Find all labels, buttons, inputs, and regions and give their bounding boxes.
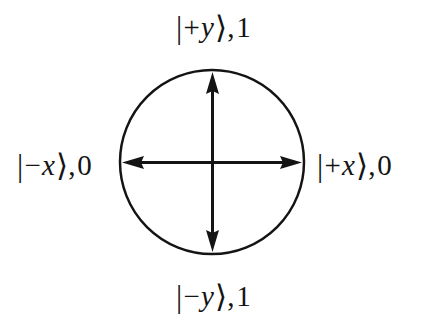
state-label-minus-y: |−y⟩,1 [0, 280, 427, 311]
y-axis-bottom-arrowhead [206, 230, 219, 252]
state-label-plus-y: |+y⟩,1 [0, 11, 427, 42]
axis-variable: y [200, 11, 214, 43]
axis-variable: x [341, 149, 355, 181]
axis-variable: x [41, 149, 55, 181]
sign-symbol: − [24, 149, 42, 181]
bit-value: 0 [377, 149, 392, 181]
ket-open-bar: | [176, 10, 183, 45]
sign-symbol: − [183, 280, 201, 312]
ket-open-bar: | [317, 148, 324, 183]
state-label-plus-x: |+x⟩,0 [317, 149, 392, 180]
label-separator: , [227, 11, 236, 43]
y-axis-top-arrowhead [206, 72, 219, 94]
sign-symbol: + [183, 11, 201, 43]
bit-value: 1 [236, 280, 251, 312]
qubit-state-circle-diagram: |+y⟩,1 |−y⟩,1 |−x⟩,0 |+x⟩,0 [0, 0, 427, 328]
ket-close-angle: ⟩ [215, 279, 228, 314]
x-axis-right-arrowhead [280, 156, 302, 169]
bit-value: 0 [77, 149, 92, 181]
axis-variable: y [200, 280, 214, 312]
label-separator: , [227, 280, 236, 312]
x-axis-left-arrowhead [122, 156, 144, 169]
sign-symbol: + [324, 149, 342, 181]
label-separator: , [368, 149, 377, 181]
ket-close-angle: ⟩ [356, 148, 369, 183]
ket-close-angle: ⟩ [56, 148, 69, 183]
label-separator: , [68, 149, 77, 181]
state-label-minus-x: |−x⟩,0 [17, 149, 92, 180]
ket-open-bar: | [176, 279, 183, 314]
ket-close-angle: ⟩ [215, 10, 228, 45]
bit-value: 1 [236, 11, 251, 43]
ket-open-bar: | [17, 148, 24, 183]
